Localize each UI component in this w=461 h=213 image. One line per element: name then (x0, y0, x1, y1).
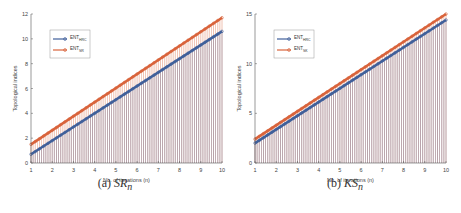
svg-text:1: 1 (29, 167, 32, 173)
svg-text:1: 1 (253, 167, 256, 173)
svg-text:8: 8 (402, 167, 405, 173)
svg-text:9: 9 (199, 167, 202, 173)
svg-text:4: 4 (93, 167, 96, 173)
svg-text:5: 5 (114, 167, 117, 173)
svg-text:4: 4 (317, 167, 320, 173)
svg-text:5: 5 (338, 167, 341, 173)
chart-panel-a: 12345678910024681012No. of iterations (n… (0, 0, 230, 213)
svg-text:9: 9 (423, 167, 426, 173)
svg-text:0: 0 (249, 160, 252, 166)
svg-text:Topological indices: Topological indices (236, 65, 242, 111)
caption-a-sub: n (127, 181, 132, 192)
caption-b: (b) KSn (230, 176, 460, 192)
svg-text:5: 5 (249, 110, 252, 116)
svg-text:8: 8 (25, 61, 28, 67)
svg-text:2: 2 (51, 167, 54, 173)
caption-b-math: KS (344, 176, 358, 190)
svg-text:3: 3 (72, 167, 75, 173)
svg-text:6: 6 (25, 86, 28, 92)
caption-a-label: (a) (98, 176, 111, 190)
svg-text:6: 6 (360, 167, 363, 173)
caption-a: (a) SRn (0, 176, 230, 192)
svg-text:Topological indices: Topological indices (12, 65, 18, 111)
caption-a-math: SR (114, 176, 127, 190)
svg-text:10: 10 (246, 61, 252, 67)
caption-b-label: (b) (327, 176, 341, 190)
svg-text:7: 7 (157, 167, 160, 173)
svg-text:6: 6 (136, 167, 139, 173)
svg-text:10: 10 (443, 167, 449, 173)
svg-text:0: 0 (25, 160, 28, 166)
svg-text:4: 4 (25, 110, 28, 116)
svg-text:15: 15 (246, 11, 252, 17)
svg-text:10: 10 (219, 167, 225, 173)
svg-text:12: 12 (22, 11, 28, 17)
chart-panel-b: 12345678910051015No. of iterations (n)To… (230, 0, 460, 213)
legend: ENTHRCENTSK (274, 30, 314, 58)
svg-text:2: 2 (275, 167, 278, 173)
svg-text:10: 10 (22, 36, 28, 42)
svg-text:2: 2 (25, 135, 28, 141)
legend: ENTHRCENTSR (50, 30, 90, 58)
svg-text:3: 3 (296, 167, 299, 173)
caption-b-sub: n (358, 181, 363, 192)
svg-text:8: 8 (178, 167, 181, 173)
svg-text:7: 7 (381, 167, 384, 173)
